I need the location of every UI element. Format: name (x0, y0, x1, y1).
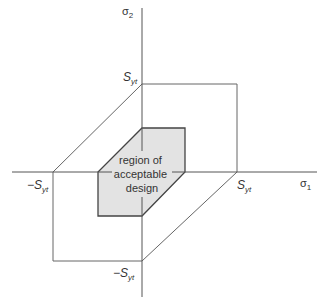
neg-y-tick-label: −Syt (113, 266, 135, 282)
neg-x-tick-label: −Syt (27, 178, 49, 194)
pos-y-tick-label: Syt (123, 70, 138, 86)
failure-envelope-diagram: region of acceptable design σ2 σ1 Syt Sy… (0, 0, 317, 297)
pos-x-tick-label: Syt (237, 178, 252, 194)
x-axis-label: σ1 (300, 177, 312, 192)
y-axis-label: σ2 (122, 5, 134, 20)
